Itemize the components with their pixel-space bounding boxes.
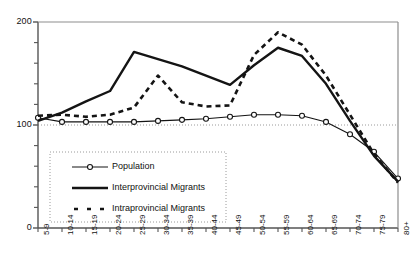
series-marker xyxy=(204,116,209,121)
series-marker xyxy=(300,113,305,118)
series-marker xyxy=(324,119,329,124)
legend-item-label-interprovincial: Interprovincial Migrants xyxy=(112,182,205,192)
y-axis-tick-label: 0 xyxy=(2,222,32,232)
series-marker xyxy=(60,119,65,124)
legend-item-label-population: Population xyxy=(112,161,155,171)
series-marker xyxy=(276,112,281,117)
x-axis-tick-label: 55-59 xyxy=(282,215,291,235)
y-axis-tick-label: 200 xyxy=(2,16,32,26)
series-marker xyxy=(108,119,113,124)
x-axis-tick-label: 50-54 xyxy=(258,215,267,235)
x-axis-tick-label: 25-29 xyxy=(138,215,147,235)
x-axis-tick-label: 70-74 xyxy=(354,215,363,235)
line-chart-plot xyxy=(0,0,419,278)
x-axis-tick-label: 35-39 xyxy=(186,215,195,235)
legend-item-label-intraprovincial: Intraprovincial Migrants xyxy=(112,203,205,213)
chart-container: 2001000 5-910-1415-1920-2425-2930-3435-3… xyxy=(0,0,419,278)
x-axis-tick-label: 80+ xyxy=(402,221,411,235)
series-marker xyxy=(156,118,161,123)
x-axis-tick-label: 60-64 xyxy=(306,215,315,235)
x-axis-tick-label: 5-9 xyxy=(42,223,51,235)
x-axis-tick-label: 30-34 xyxy=(162,215,171,235)
series-marker xyxy=(132,119,137,124)
series-marker xyxy=(180,117,185,122)
x-axis-tick-label: 65-69 xyxy=(330,215,339,235)
x-axis-tick-label: 10-14 xyxy=(66,215,75,235)
series-marker xyxy=(348,132,353,137)
series-marker xyxy=(252,112,257,117)
x-axis-tick-label: 20-24 xyxy=(114,215,123,235)
x-axis-tick-label: 15-19 xyxy=(90,215,99,235)
x-axis-tick-label: 40-44 xyxy=(210,215,219,235)
series-marker xyxy=(228,114,233,119)
x-axis-tick-label: 45-49 xyxy=(234,215,243,235)
series-marker xyxy=(84,119,89,124)
x-axis-tick-label: 75-79 xyxy=(378,215,387,235)
y-axis-tick-label: 100 xyxy=(2,119,32,129)
